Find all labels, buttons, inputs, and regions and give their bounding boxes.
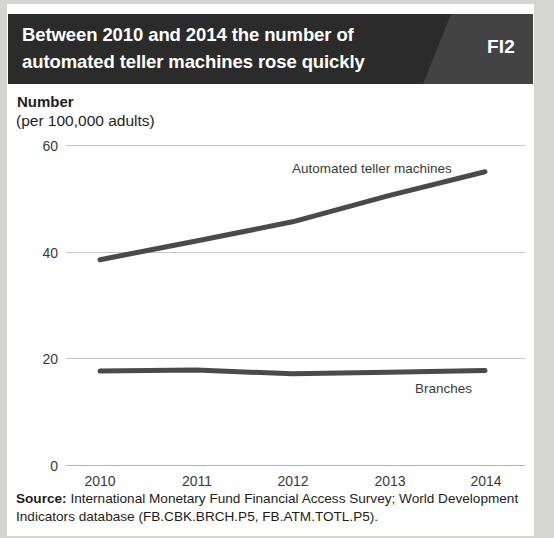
series-label-automated-teller-machines: Automated teller machines	[292, 161, 452, 176]
source-note: Source: International Monetary Fund Fina…	[16, 490, 521, 526]
source-text: International Monetary Fund Financial Ac…	[16, 491, 518, 524]
line-automated-teller-machines	[100, 172, 485, 260]
source-label: Source:	[16, 491, 67, 506]
series-lines	[0, 0, 554, 538]
plot-area: 60 40 20 0 2010 2011 2012 2013 2014 Auto…	[0, 0, 554, 538]
series-label-branches: Branches	[415, 381, 472, 396]
figure-container: Between 2010 and 2014 the number of auto…	[0, 0, 554, 538]
line-branches	[100, 370, 485, 374]
